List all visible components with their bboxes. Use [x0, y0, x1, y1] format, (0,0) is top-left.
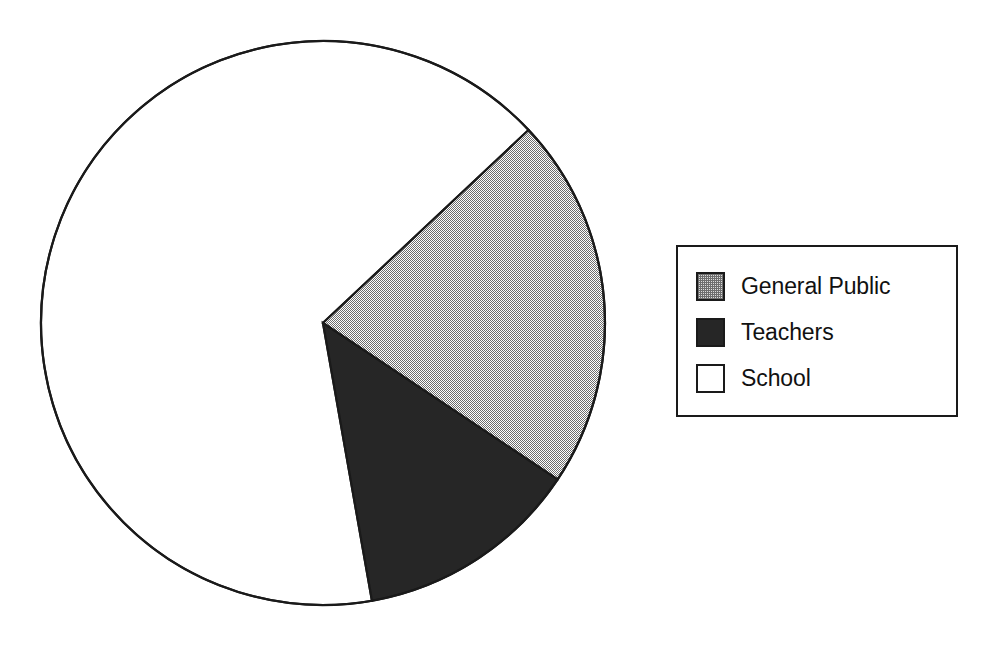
teachers-swatch	[696, 318, 725, 347]
legend-item-general-public[interactable]: General Public	[696, 263, 956, 309]
pie-chart-page: General Public Teachers School	[0, 0, 1002, 650]
legend-label-teachers: Teachers	[741, 319, 834, 346]
chart-legend: General Public Teachers School	[676, 245, 958, 417]
general-public-swatch	[696, 272, 725, 301]
legend-label-school: School	[741, 365, 811, 392]
legend-label-general-public: General Public	[741, 273, 890, 300]
legend-item-teachers[interactable]: Teachers	[696, 309, 956, 355]
legend-item-school[interactable]: School	[696, 355, 956, 401]
school-swatch	[696, 364, 725, 393]
